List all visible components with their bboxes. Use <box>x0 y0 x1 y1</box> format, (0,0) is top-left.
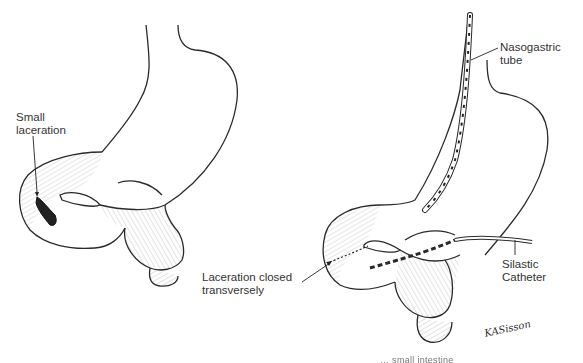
label-laceration-closed: Laceration closed transversely <box>202 271 292 297</box>
label-nasogastric-tube: Nasogastric tube <box>500 41 561 67</box>
illustration-canvas <box>0 0 583 363</box>
label-line: transversely <box>202 284 292 297</box>
label-line: Catheter <box>502 271 546 284</box>
caption-fragment: … small intestine <box>380 355 454 363</box>
label-line: Small <box>16 111 66 124</box>
label-line: Nasogastric <box>500 41 561 54</box>
label-small-laceration: Small laceration <box>16 111 66 137</box>
label-line: laceration <box>16 124 66 137</box>
label-silastic-catheter: Silastic Catheter <box>502 258 546 284</box>
label-line: Silastic <box>502 258 546 271</box>
label-line: tube <box>500 54 561 67</box>
label-line: Laceration closed <box>202 271 292 284</box>
